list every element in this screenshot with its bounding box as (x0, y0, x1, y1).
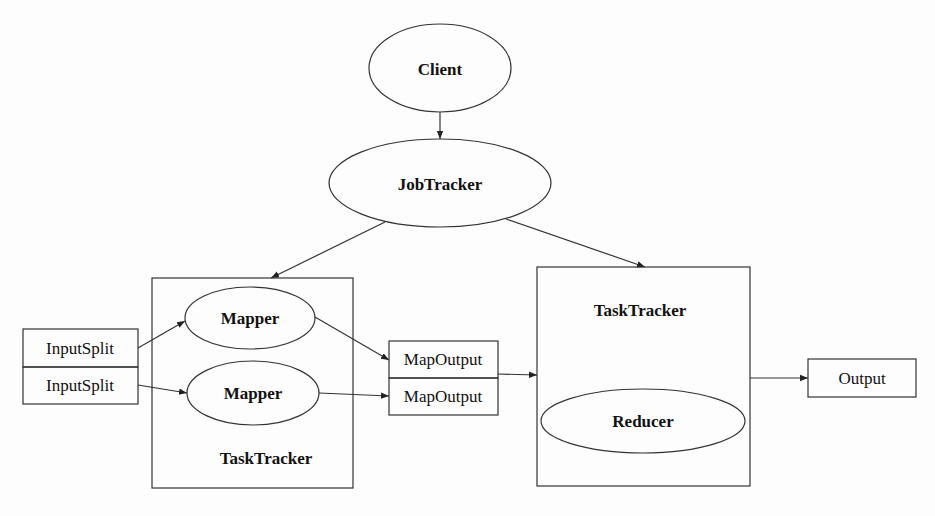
mapper-2-label: Mapper (224, 384, 283, 403)
reducer-label: Reducer (612, 412, 674, 431)
edge-mapper1-mapoutput1 (315, 317, 389, 360)
tasktracker-map-label: TaskTracker (220, 449, 313, 468)
edge-jobtracker-tasktracker-reduce (506, 219, 645, 267)
mapoutput-2-label: MapOutput (404, 387, 483, 406)
mapper-1-label: Mapper (221, 309, 280, 328)
output-label: Output (838, 369, 886, 388)
jobtracker-node: JobTracker (329, 139, 551, 227)
mapper-node-2: Mapper (187, 361, 319, 425)
client-label: Client (418, 60, 463, 79)
inputsplit-2-label: InputSplit (46, 376, 114, 395)
edge-mapoutput-tasktracker-reduce (498, 374, 537, 375)
inputsplit-1-label: InputSplit (46, 339, 114, 358)
edge-inputsplit1-mapper1 (138, 321, 185, 348)
mapoutput-1-label: MapOutput (404, 350, 483, 369)
client-node: Client (369, 24, 511, 112)
inputsplit-record: InputSplit InputSplit (23, 329, 138, 404)
edge-jobtracker-tasktracker-map (271, 222, 385, 278)
mapoutput-record: MapOutput MapOutput (389, 341, 498, 415)
mapreduce-diagram: Client JobTracker TaskTracker Mapper Map… (0, 0, 935, 516)
mapper-node-1: Mapper (185, 287, 315, 349)
tasktracker-reduce-label: TaskTracker (594, 301, 687, 320)
reducer-node: Reducer (541, 389, 745, 453)
output-node: Output (808, 359, 916, 397)
edge-inputsplit2-mapper2 (138, 385, 187, 393)
edge-mapper2-mapoutput2 (319, 393, 389, 396)
jobtracker-label: JobTracker (398, 175, 483, 194)
